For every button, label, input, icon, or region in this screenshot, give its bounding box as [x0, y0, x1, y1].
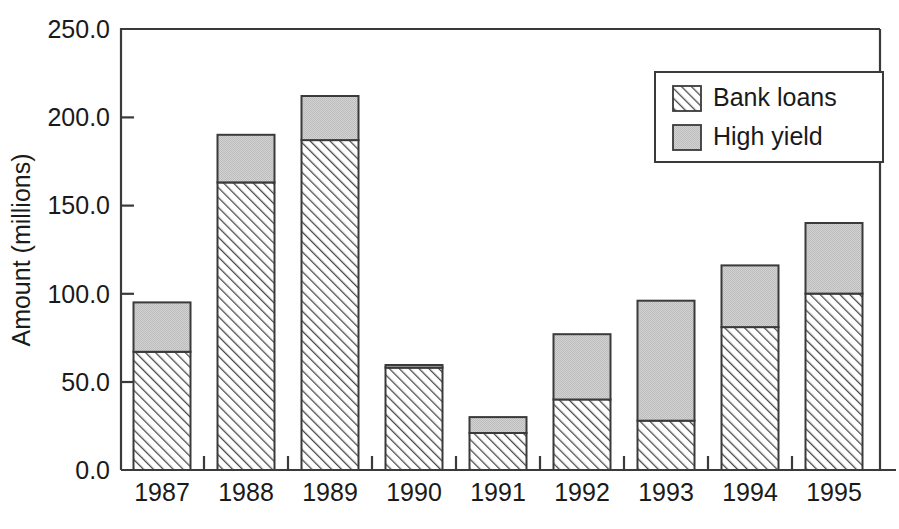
bar-segment-1988-high-yield	[218, 135, 275, 183]
x-tick-label-1992: 1992	[554, 478, 610, 506]
y-tick-label-0: 0.0	[75, 456, 110, 484]
bar-segment-1994-bank-loans	[722, 327, 779, 470]
bar-segment-1989-bank-loans	[302, 140, 359, 470]
bar-segment-1993-high-yield	[638, 301, 695, 421]
x-tick-label-1993: 1993	[638, 478, 694, 506]
x-tick-label-1994: 1994	[722, 478, 778, 506]
y-tick-label-200: 200.0	[47, 103, 110, 131]
bar-segment-1987-high-yield	[134, 302, 191, 351]
bar-segment-1989-high-yield	[302, 96, 359, 140]
y-tick-label-100: 100.0	[47, 280, 110, 308]
legend-label-bank-loans: Bank loans	[713, 83, 837, 111]
bar-segment-1993-bank-loans	[638, 421, 695, 470]
legend-label-high-yield: High yield	[713, 122, 823, 150]
stacked-bar-chart: Amount (millions) 250.0 200.0 150.0 100.…	[0, 0, 899, 529]
legend-swatch-high-yield	[673, 125, 701, 150]
y-axis-tick-labels: 250.0 200.0 150.0 100.0 50.0 0.0	[47, 15, 110, 484]
bar-segment-1990-high-yield	[386, 365, 443, 368]
bar-segment-1991-bank-loans	[470, 433, 527, 470]
y-axis-tick-marks	[121, 117, 134, 382]
x-axis-tick-labels: 1987 1988 1989 1990 1991 1992 1993 1994 …	[134, 478, 862, 506]
bar-segment-1992-high-yield	[554, 334, 611, 399]
chart-legend: Bank loans High yield	[655, 72, 883, 162]
x-tick-label-1991: 1991	[470, 478, 526, 506]
x-tick-label-1989: 1989	[302, 478, 358, 506]
bar-segment-1994-high-yield	[722, 265, 779, 327]
bar-segment-1987-bank-loans	[134, 352, 191, 470]
bar-segment-1995-bank-loans	[806, 294, 863, 470]
bar-segment-1991-high-yield	[470, 417, 527, 433]
x-tick-label-1988: 1988	[218, 478, 274, 506]
bar-segment-1992-bank-loans	[554, 399, 611, 470]
y-tick-label-250: 250.0	[47, 15, 110, 43]
y-axis-title: Amount (millions)	[7, 153, 35, 346]
x-tick-label-1990: 1990	[386, 478, 442, 506]
x-tick-label-1987: 1987	[134, 478, 190, 506]
y-axis-title-group: Amount (millions)	[7, 153, 35, 346]
y-tick-label-150: 150.0	[47, 191, 110, 219]
legend-swatch-bank-loans	[673, 86, 701, 111]
bar-segment-1995-high-yield	[806, 223, 863, 294]
y-tick-label-50: 50.0	[61, 368, 110, 396]
bar-segment-1988-bank-loans	[218, 183, 275, 471]
chart-page: Amount (millions) 250.0 200.0 150.0 100.…	[0, 0, 899, 529]
bar-segment-1990-bank-loans	[386, 368, 443, 470]
x-tick-label-1995: 1995	[806, 478, 862, 506]
